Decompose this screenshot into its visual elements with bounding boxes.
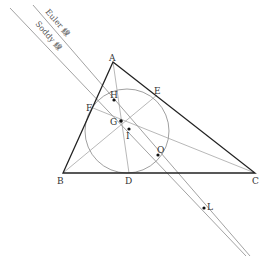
euler-line (33, 5, 250, 256)
label-O: O (157, 145, 164, 155)
label-B: B (57, 176, 64, 186)
cevian-BE (63, 95, 157, 173)
label-D: D (125, 176, 132, 186)
label-A: A (108, 53, 116, 63)
label-H: H (110, 90, 118, 100)
cevian-CF (93, 108, 255, 173)
label-I: I (126, 131, 130, 141)
label-G: G (110, 117, 117, 127)
label-C: C (252, 176, 259, 186)
label-L: L (207, 202, 213, 212)
label-F: F (86, 103, 92, 113)
triangle-ABC (63, 62, 255, 173)
point-L (202, 206, 205, 209)
point-G (119, 119, 123, 123)
label-E: E (154, 86, 161, 96)
geometry-diagram: A B C D E F H G I O L Euler 線 Soddy 線 (0, 0, 265, 267)
